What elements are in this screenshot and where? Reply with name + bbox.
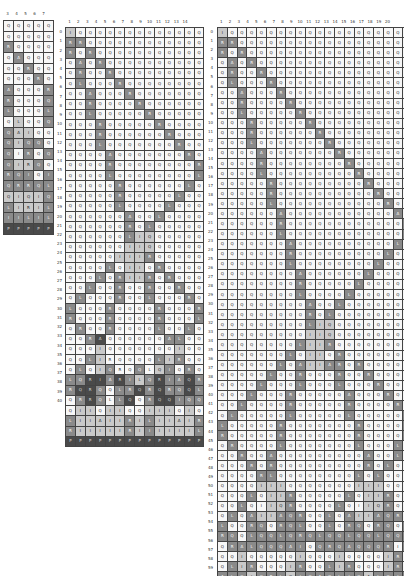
grid-cell: Q	[184, 263, 194, 273]
grid-cell: Q	[344, 239, 354, 249]
row-label: 38	[54, 379, 62, 384]
grid-cell: Q	[305, 259, 315, 269]
grid-cell: Q	[335, 481, 345, 491]
grid-cell: Q	[335, 199, 345, 209]
grid-cell: I	[95, 355, 105, 365]
grid-cell: Q	[194, 324, 204, 334]
grid-cell: Q	[24, 95, 34, 106]
grid-cell: R	[164, 273, 174, 283]
grid-cell: Q	[145, 150, 155, 160]
grid-cell: R	[75, 324, 85, 334]
grid-cell: L	[354, 441, 364, 451]
grid-cell: L	[286, 350, 296, 360]
grid-cell: Q	[325, 410, 335, 420]
grid-cell: Q	[257, 249, 267, 259]
grid-row: QQQQRLQQQQQQQQLQLQQQ	[218, 471, 404, 481]
grid-cell: Q	[227, 360, 237, 370]
row-label: 43	[205, 419, 213, 424]
grid-cell: I	[164, 426, 174, 436]
grid-cell: Q	[75, 171, 85, 181]
grid-cell: Q	[237, 68, 247, 78]
grid-cell: Q	[75, 160, 85, 170]
grid-cell: I	[34, 192, 44, 203]
grid-cell: Q	[344, 179, 354, 189]
grid-cell: Q	[95, 395, 105, 405]
grid-cell: Q	[174, 324, 184, 334]
grid-cell: Q	[296, 58, 306, 68]
grid-cell: R	[4, 95, 14, 106]
grid-cell: Q	[305, 290, 315, 300]
grid-cell: Q	[315, 229, 325, 239]
grid-cell: Q	[364, 340, 374, 350]
grid-cell: A	[14, 53, 24, 64]
grid-cell: Q	[85, 222, 95, 232]
grid-cell: Q	[393, 279, 403, 289]
grid-cell: R	[155, 375, 165, 385]
grid-cell: Q	[374, 431, 384, 441]
grid-cell: Q	[218, 108, 228, 118]
grid-cell: R	[276, 431, 286, 441]
column-header: 5	[252, 19, 261, 24]
grid-cell: Q	[344, 471, 354, 481]
grid-cell: R	[335, 370, 345, 380]
row-label: 35	[54, 352, 62, 357]
grid-cell: Q	[155, 160, 165, 170]
grid-cell: Q	[247, 410, 257, 420]
grid-cell: Q	[66, 242, 76, 252]
grid-cell: Q	[174, 109, 184, 119]
grid-cell: Q	[383, 148, 393, 158]
grid-cell: Q	[75, 99, 85, 109]
grid-cell: Q	[34, 138, 44, 149]
grid-cell: R	[66, 38, 76, 48]
grid-cell: R	[266, 189, 276, 199]
grid-cell: I	[305, 360, 315, 370]
grid-cell: Q	[393, 421, 403, 431]
grid-cell: Q	[115, 99, 125, 109]
grid-cell: Q	[393, 501, 403, 511]
grid-cell: I	[85, 426, 95, 436]
grid-cell: Q	[237, 138, 247, 148]
grid-cell: Q	[247, 279, 257, 289]
grid-cell: Q	[266, 421, 276, 431]
grid-cell: L	[115, 201, 125, 211]
grid-cell: R	[145, 109, 155, 119]
grid-cell: Q	[286, 88, 296, 98]
grid-cell: Q	[194, 334, 204, 344]
grid-cell: I	[125, 242, 135, 252]
grid-cell: R	[85, 395, 95, 405]
grid-cell: R	[393, 511, 403, 521]
grid-cell: Q	[237, 370, 247, 380]
grid-cell: Q	[325, 572, 335, 576]
grid-cell: Q	[105, 365, 115, 375]
grid-cell: Q	[218, 239, 228, 249]
grid-cell: Q	[95, 109, 105, 119]
grid-cell: Q	[227, 239, 237, 249]
grid-cell: Q	[14, 74, 24, 85]
grid-cell: Q	[325, 249, 335, 259]
grid-cell: I	[34, 202, 44, 213]
grid-cell: R	[184, 150, 194, 160]
grid-row: QQAQQQRQQQQQQQ	[66, 89, 204, 99]
grid-cell: Q	[325, 239, 335, 249]
grid-cell: Q	[135, 38, 145, 48]
grid-cell: Q	[305, 219, 315, 229]
grid-cell: Q	[135, 119, 145, 129]
grid-cell: Q	[286, 189, 296, 199]
grid-cell: Q	[75, 232, 85, 242]
grid-cell: Q	[383, 410, 393, 420]
grid-cell: Q	[296, 350, 306, 360]
grid-row: PPPPP	[4, 224, 54, 235]
grid-cell: R	[227, 441, 237, 451]
grid-cell: Q	[194, 79, 204, 89]
grid-cell: Q	[115, 171, 125, 181]
grid-cell: A	[286, 239, 296, 249]
grid-row: QRQQQQLQQQQQQQLQQQLQ	[218, 441, 404, 451]
column-header: 5	[21, 11, 30, 16]
row-label: 28	[205, 283, 213, 288]
grid-cell: Q	[393, 350, 403, 360]
grid-cell: Q	[325, 78, 335, 88]
grid-cell: I	[164, 375, 174, 385]
grid-row: QQQLQIIRQQQQQLQIIRQQ	[218, 491, 404, 501]
grid-cell: Q	[383, 269, 393, 279]
grid-cell: Q	[105, 242, 115, 252]
